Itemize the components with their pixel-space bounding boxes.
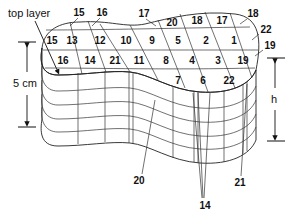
callout-18: 18	[247, 8, 259, 19]
cell-label: 16	[57, 55, 69, 66]
callout-16: 16	[96, 7, 108, 18]
cell-label: 21	[109, 55, 121, 66]
top-layer-label: top layer	[8, 7, 51, 19]
cell-label: 19	[237, 55, 249, 66]
callout-22: 22	[260, 24, 272, 35]
top-grid-row-3: 7 6 22	[175, 75, 235, 86]
dimension-h-label: h	[271, 93, 277, 105]
block-side-walls	[41, 48, 256, 163]
cell-label: 8	[163, 55, 169, 66]
top-grid-row-1: 15 13 12 10 9 5 2 1	[46, 35, 237, 46]
sample-block-diagram: 15 13 12 10 9 5 2 1 16 14 21 11 8 4 3 19…	[0, 0, 294, 224]
cell-label: 11	[134, 55, 145, 66]
left-dimension: 5 cm	[13, 42, 37, 127]
cell-label: 1	[231, 35, 237, 46]
cell-label: 3	[215, 55, 221, 66]
cell-label: 4	[189, 55, 195, 66]
right-dimension: h	[267, 58, 285, 141]
right-callouts: 18 22 19	[240, 8, 276, 56]
cell-label: 14	[84, 55, 96, 66]
cell-label: 17	[216, 15, 228, 26]
dimension-5cm-label: 5 cm	[13, 77, 37, 89]
callout-20: 20	[133, 175, 145, 186]
cell-label: 6	[200, 75, 206, 86]
callout-15: 15	[73, 7, 85, 18]
cell-label: 12	[94, 35, 106, 46]
top-edge-cells: 20 18 17	[166, 15, 228, 28]
cell-label: 13	[66, 35, 78, 46]
cell-label: 9	[149, 35, 155, 46]
cell-label: 10	[120, 35, 132, 46]
callout-14: 14	[199, 200, 211, 211]
cell-label: 20	[166, 17, 178, 28]
cell-label: 5	[175, 35, 181, 46]
cell-label: 22	[223, 75, 235, 86]
cell-label: 15	[46, 35, 58, 46]
cell-label: 18	[191, 15, 203, 26]
callout-19: 19	[264, 40, 276, 51]
cell-label: 2	[203, 35, 209, 46]
cell-label: 7	[175, 75, 181, 86]
callout-21: 21	[234, 177, 246, 188]
top-grid-row-2: 16 14 21 11 8 4 3 19	[57, 55, 249, 66]
callout-17: 17	[138, 8, 150, 19]
